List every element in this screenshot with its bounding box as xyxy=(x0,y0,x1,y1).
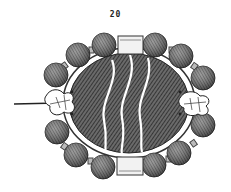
brooch-illustration xyxy=(0,0,231,192)
central-stone xyxy=(69,53,189,154)
left-leaf-clasp xyxy=(14,90,74,116)
top-bar-setting xyxy=(118,36,143,54)
bottom-bar-setting xyxy=(117,157,143,175)
